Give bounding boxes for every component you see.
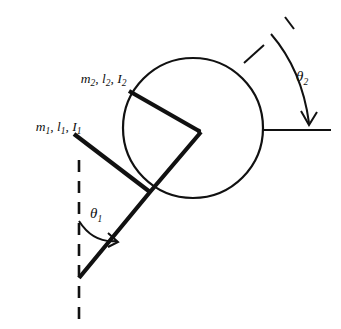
central-hub-joint: [197, 129, 201, 133]
link2-inertia-subscript: 2: [122, 78, 127, 88]
link2-parameters-label: m2, l2, I2: [57, 71, 143, 89]
mechanism-diagram: m1, l1, I1 m2, l2, I2 θ1 θ2: [0, 0, 341, 329]
link1-mass-symbol: m: [36, 119, 46, 134]
link1-sep-1: ,: [50, 119, 57, 134]
link1-sep-2: ,: [65, 119, 72, 134]
link1-inertia-subscript: 1: [77, 126, 82, 136]
link1-label-leader-segment: [74, 134, 150, 192]
link1-parameters-label: m1, l1, I1: [12, 119, 98, 137]
diagram-canvas: m1, l1, I1 m2, l2, I2 θ1 θ2: [0, 0, 341, 329]
link2-upper-arm: [129, 91, 199, 131]
theta1-label: θ1: [90, 205, 102, 224]
link2-sep-1: ,: [95, 71, 102, 86]
theta2-subscript: 2: [303, 77, 308, 87]
theta2-label: θ2: [296, 68, 308, 87]
upper-dash-accent: [285, 17, 294, 29]
disc-angular-tick-mark: [244, 45, 264, 63]
theta1-subscript: 1: [97, 214, 102, 224]
link2-sep-2: ,: [110, 71, 117, 86]
link2-mass-symbol: m: [81, 71, 91, 86]
